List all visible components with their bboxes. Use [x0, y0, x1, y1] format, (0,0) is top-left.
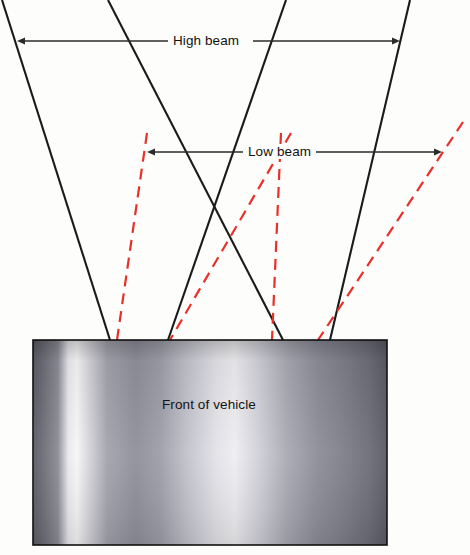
high-beam-ray — [330, 0, 410, 340]
vehicle-label: Front of vehicle — [162, 397, 256, 412]
low-beam-ray — [272, 133, 281, 340]
high-beam-label: High beam — [168, 33, 244, 48]
vehicle-rect-shading — [33, 340, 387, 545]
diagram-canvas: High beam Low beam Front of vehicle — [0, 0, 470, 555]
high-beam-ray — [108, 0, 283, 340]
low-beam-label: Low beam — [243, 144, 316, 159]
high-beam-ray — [2, 0, 110, 340]
vehicle-front-rect — [33, 340, 387, 545]
low-beam-ray — [318, 122, 463, 340]
beam-diagram — [0, 0, 470, 555]
high-beam-ray-group — [2, 0, 410, 340]
low-beam-ray — [117, 133, 147, 340]
